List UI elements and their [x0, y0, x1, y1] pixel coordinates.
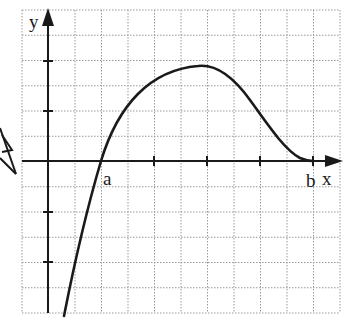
point-label-b: b — [306, 170, 316, 191]
y-axis-arrow-icon — [42, 8, 54, 26]
x-axis — [22, 155, 343, 167]
y-axis-label: y — [29, 11, 39, 32]
x-axis-label: x — [322, 168, 332, 189]
function-graph: y x a b — [0, 0, 364, 334]
x-axis-arrow-icon — [325, 155, 343, 167]
point-label-a: a — [103, 168, 112, 189]
pointer-glyph — [0, 128, 16, 174]
